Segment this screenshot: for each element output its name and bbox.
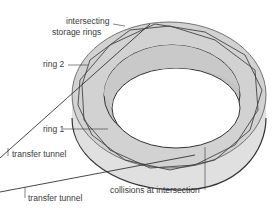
label-transfer-tunnel-2: transfer tunnel xyxy=(28,193,82,203)
label-storage-rings: storage rings xyxy=(52,27,101,37)
ring-inner-hole xyxy=(112,68,240,148)
label-ring-2: ring 2 xyxy=(43,59,64,69)
label-intersecting: intersecting xyxy=(66,16,109,26)
storage-ring-diagram: intersecting storage rings ring 2 ring 1… xyxy=(0,0,272,219)
label-ring-1: ring 1 xyxy=(43,124,64,134)
label-transfer-tunnel-1: transfer tunnel xyxy=(12,149,66,159)
label-collisions: collisions at intersection xyxy=(110,185,200,195)
